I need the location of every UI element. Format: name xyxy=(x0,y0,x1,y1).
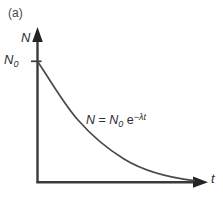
figure-canvas xyxy=(0,0,223,204)
panel-label: (a) xyxy=(8,7,23,19)
x-axis-arrowhead xyxy=(193,177,208,188)
decay-equation-annotation: N = N0 e−λt xyxy=(86,113,146,129)
y-axis-label: N xyxy=(21,31,30,44)
equation-exponent-variable: t xyxy=(143,112,146,122)
y-initial-value-label: N0 xyxy=(4,53,18,69)
y-initial-symbol: N xyxy=(4,52,13,67)
decay-curve-figure: (a) N N0 t N = N0 e−λt xyxy=(0,0,223,204)
equation-amplitude: N xyxy=(109,113,118,127)
equation-equals: = xyxy=(95,113,109,127)
x-axis-label: t xyxy=(211,172,215,185)
equation-lhs: N xyxy=(86,113,95,127)
equation-exponential-base: e xyxy=(123,113,133,127)
y-axis-arrowhead xyxy=(32,27,43,42)
y-initial-subscript: 0 xyxy=(13,59,18,69)
